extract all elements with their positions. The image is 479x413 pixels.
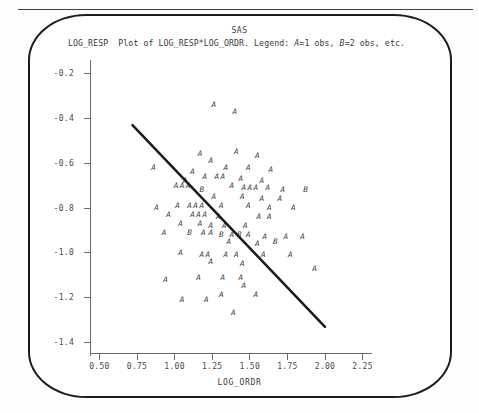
data-point-marker: A (202, 211, 207, 219)
data-point-marker: A (178, 249, 183, 257)
data-point-marker: A (201, 229, 206, 237)
x-tick-mark (174, 353, 175, 360)
data-point-marker: A (219, 202, 224, 210)
x-tick-mark (325, 353, 326, 360)
data-point-marker: A (211, 101, 216, 109)
sas-software-title: SAS (0, 25, 479, 35)
y-tick-label: -0.4 (0, 114, 74, 123)
data-point-marker: A (241, 283, 246, 291)
data-point-marker: A (240, 193, 245, 201)
data-point-marker: B (199, 186, 204, 194)
data-point-marker: A (238, 175, 243, 183)
data-point-marker: A (291, 204, 296, 212)
y-tick-mark (84, 252, 91, 253)
y-tick-mark (84, 73, 91, 74)
data-point-marker: A (278, 195, 283, 203)
data-point-marker: A (284, 233, 289, 241)
y-tick-mark (84, 208, 91, 209)
data-point-marker: A (219, 292, 224, 300)
x-axis-line (90, 353, 372, 354)
data-point-marker: A (269, 166, 274, 174)
data-point-marker: A (246, 202, 251, 210)
x-tick-mark (137, 353, 138, 360)
data-point-marker: A (255, 153, 260, 161)
data-point-marker: A (196, 211, 201, 219)
data-point-marker: A (260, 195, 265, 203)
data-point-marker: A (223, 251, 228, 259)
y-tick-mark (84, 163, 91, 164)
data-point-marker: A (166, 211, 171, 219)
y-tick-label: -1.4 (0, 338, 74, 347)
data-point-marker: A (281, 186, 286, 194)
data-point-marker: A (220, 173, 225, 181)
data-point-marker: A (151, 164, 156, 172)
y-tick-mark (84, 297, 91, 298)
data-point-marker: A (234, 251, 239, 259)
data-point-marker: A (222, 222, 227, 230)
y-tick-label: -0.8 (0, 204, 74, 213)
data-point-marker: A (154, 204, 159, 212)
data-point-marker: A (267, 213, 272, 221)
data-point-marker: B (303, 186, 308, 194)
data-point-marker: A (190, 211, 195, 219)
data-point-marker: A (178, 220, 183, 228)
data-point-marker: A (266, 184, 271, 192)
data-point-marker: A (255, 240, 260, 248)
data-point-marker: A (300, 233, 305, 241)
y-variable-name: LOG_RESP (68, 38, 108, 48)
x-axis-title: LOG_ORDR (0, 378, 479, 387)
scanned-page: SAS LOG_RESP Plot of LOG_RESP*LOG_ORDR. … (0, 0, 479, 413)
y-tick-label: -1.2 (0, 293, 74, 302)
y-tick-label: -0.6 (0, 159, 74, 168)
data-point-marker: A (267, 204, 272, 212)
data-point-marker: A (162, 229, 167, 237)
y-tick-mark (84, 118, 91, 119)
data-point-marker: A (199, 251, 204, 259)
legend-text-b: =2 obs, etc. (345, 38, 405, 48)
plot-caption-line: LOG_RESP Plot of LOG_RESP*LOG_ORDR. Lege… (68, 38, 405, 48)
sas-plot-output: SAS LOG_RESP Plot of LOG_RESP*LOG_ORDR. … (0, 0, 479, 413)
data-point-marker: A (312, 265, 317, 273)
data-point-marker: A (260, 177, 265, 185)
data-point-marker: A (231, 310, 236, 318)
data-point-marker: A (190, 168, 195, 176)
data-point-marker: A (232, 108, 237, 116)
y-tick-mark (84, 342, 91, 343)
data-point-marker: A (196, 274, 201, 282)
data-point-marker: A (204, 296, 209, 304)
data-point-marker: A (208, 258, 213, 266)
data-point-marker: A (180, 182, 185, 190)
data-point-marker: A (243, 222, 248, 230)
data-point-marker: A (193, 202, 198, 210)
data-point-marker: A (229, 182, 234, 190)
data-point-marker: A (175, 202, 180, 210)
data-point-marker: A (234, 148, 239, 156)
data-point-marker: B (273, 238, 278, 246)
data-point-marker: A (180, 296, 185, 304)
data-point-marker: A (240, 260, 245, 268)
data-point-marker: A (208, 157, 213, 165)
data-point-marker: A (198, 150, 203, 158)
data-point-marker: A (198, 220, 203, 228)
data-point-marker: A (199, 202, 204, 210)
data-point-marker: B (219, 231, 224, 239)
data-point-marker: A (248, 184, 253, 192)
data-point-marker: B (237, 231, 242, 239)
x-tick-mark (212, 353, 213, 360)
data-point-marker: A (241, 184, 246, 192)
x-tick-label: 2.25 (341, 362, 385, 371)
data-point-marker: A (246, 231, 251, 239)
x-tick-mark (287, 353, 288, 360)
data-point-marker: A (214, 173, 219, 181)
plot-description: Plot of LOG_RESP*LOG_ORDR. Legend: (118, 38, 294, 48)
data-point-marker: A (208, 229, 213, 237)
x-tick-mark (362, 353, 363, 360)
data-point-marker: A (288, 251, 293, 259)
data-point-marker: A (257, 213, 262, 221)
x-tick-mark (249, 353, 250, 360)
data-point-marker: A (261, 251, 266, 259)
data-point-marker: A (187, 202, 192, 210)
data-point-marker: A (263, 233, 268, 241)
data-point-marker: A (226, 238, 231, 246)
legend-text-a: =1 obs, (299, 38, 339, 48)
